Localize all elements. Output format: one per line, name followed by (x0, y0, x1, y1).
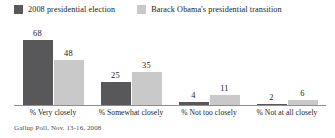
bar-value-election-0: 68 (33, 29, 42, 39)
x-axis-label-2: % Not too closely (170, 107, 248, 119)
bar-wrap-election-1: 25 (101, 20, 131, 106)
bar-group-not-too-closely: 4 11 (170, 20, 248, 106)
bar-wrap-transition-3: 6 (288, 20, 318, 106)
bar-value-transition-0: 48 (64, 49, 73, 59)
x-axis-line (14, 105, 326, 106)
bar-value-transition-1: 35 (142, 61, 151, 71)
bar-value-transition-3: 6 (300, 89, 304, 99)
legend-label-transition: Barack Obama's presidential transition (151, 5, 282, 15)
bar-wrap-transition-1: 35 (132, 20, 162, 106)
bar-wrap-election-0: 68 (23, 20, 53, 106)
bar-election-1 (101, 82, 131, 106)
legend-swatch-election (14, 5, 23, 14)
bar-chart: 2008 presidential election Barack Obama'… (0, 0, 335, 138)
source-note: Gallup Poll, Nov. 13-16, 2008 (14, 124, 101, 133)
bar-wrap-election-2: 4 (179, 20, 209, 106)
x-axis-label-1: % Somewhat closely (92, 107, 170, 119)
bar-value-election-3: 2 (269, 93, 273, 103)
bar-transition-0 (54, 60, 84, 106)
chart-legend: 2008 presidential election Barack Obama'… (14, 3, 324, 16)
bar-group-not-at-all-closely: 2 6 (248, 20, 326, 106)
bar-groups: 68 48 25 35 4 (14, 20, 326, 106)
bar-value-transition-2: 11 (220, 84, 228, 94)
bar-wrap-transition-2: 11 (210, 20, 240, 106)
legend-label-election: 2008 presidential election (28, 5, 115, 15)
bar-election-0 (23, 40, 53, 106)
bar-value-election-1: 25 (111, 71, 120, 81)
legend-item-transition: Barack Obama's presidential transition (137, 5, 282, 15)
plot-area: 68 48 25 35 4 (14, 20, 326, 106)
legend-swatch-transition (137, 5, 146, 14)
x-axis-label-3: % Not at all closely (248, 107, 326, 119)
bar-group-very-closely: 68 48 (14, 20, 92, 106)
bar-wrap-transition-0: 48 (54, 20, 84, 106)
x-axis-label-0: % Very closely (14, 107, 92, 119)
bar-wrap-election-3: 2 (257, 20, 287, 106)
x-axis-labels: % Very closely % Somewhat closely % Not … (14, 107, 326, 119)
bar-group-somewhat-closely: 25 35 (92, 20, 170, 106)
bar-transition-1 (132, 72, 162, 106)
bar-value-election-2: 4 (191, 91, 195, 101)
legend-item-election: 2008 presidential election (14, 5, 115, 15)
